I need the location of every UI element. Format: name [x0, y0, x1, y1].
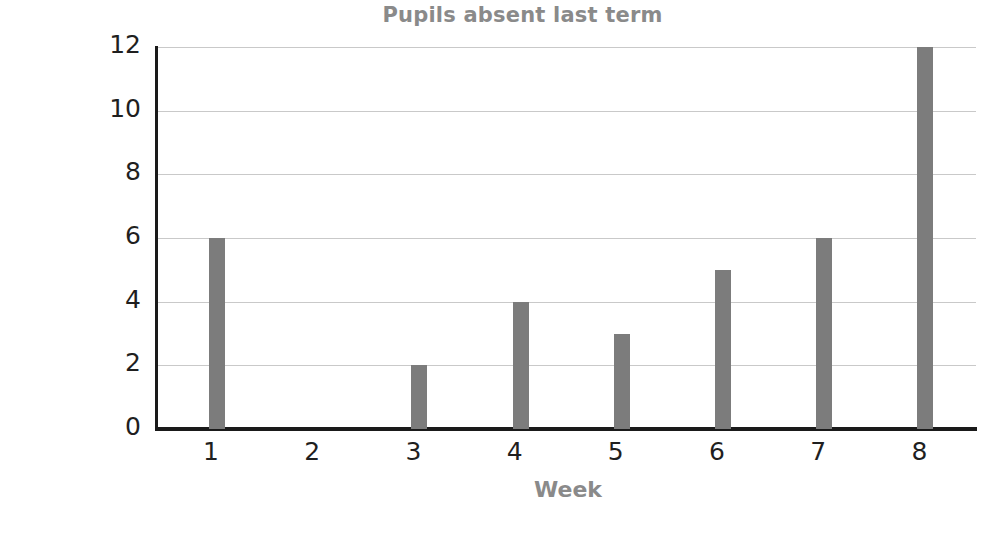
gridline-10	[158, 111, 976, 112]
y-tick-label-0: 0	[95, 412, 141, 441]
bar-week-6	[715, 270, 731, 429]
y-tick-label-4: 4	[95, 285, 141, 314]
y-tick-label-6: 6	[95, 221, 141, 250]
x-tick-label-7: 7	[798, 437, 838, 466]
x-tick-label-2: 2	[292, 437, 332, 466]
bar-week-1	[209, 238, 225, 429]
bar-week-4	[513, 302, 529, 429]
y-tick-label-10: 10	[95, 94, 141, 123]
bar-week-8	[917, 47, 933, 429]
chart-title: Pupils absent last term	[0, 3, 995, 27]
bar-week-3	[411, 365, 427, 429]
plot-area	[158, 46, 976, 429]
y-tick-label-2: 2	[95, 348, 141, 377]
bar-chart: Pupils absent last term Number of pupils…	[0, 0, 995, 533]
gridline-2	[158, 365, 976, 366]
x-tick-label-1: 1	[191, 437, 231, 466]
chart-title-text: Pupils absent last term	[382, 3, 662, 27]
x-axis-title: Week	[158, 477, 978, 502]
x-tick-label-8: 8	[899, 437, 939, 466]
x-tick-label-5: 5	[596, 437, 636, 466]
bar-week-7	[816, 238, 832, 429]
bar-week-5	[614, 334, 630, 430]
y-tick-label-8: 8	[95, 157, 141, 186]
gridline-8	[158, 174, 976, 175]
y-axis-title: Number of pupils who were absent	[0, 0, 100, 533]
y-tick-label-12: 12	[95, 30, 141, 59]
gridline-6	[158, 238, 976, 239]
gridline-12	[158, 47, 976, 48]
x-tick-label-4: 4	[495, 437, 535, 466]
x-tick-label-3: 3	[393, 437, 433, 466]
gridline-4	[158, 302, 976, 303]
x-tick-label-6: 6	[697, 437, 737, 466]
